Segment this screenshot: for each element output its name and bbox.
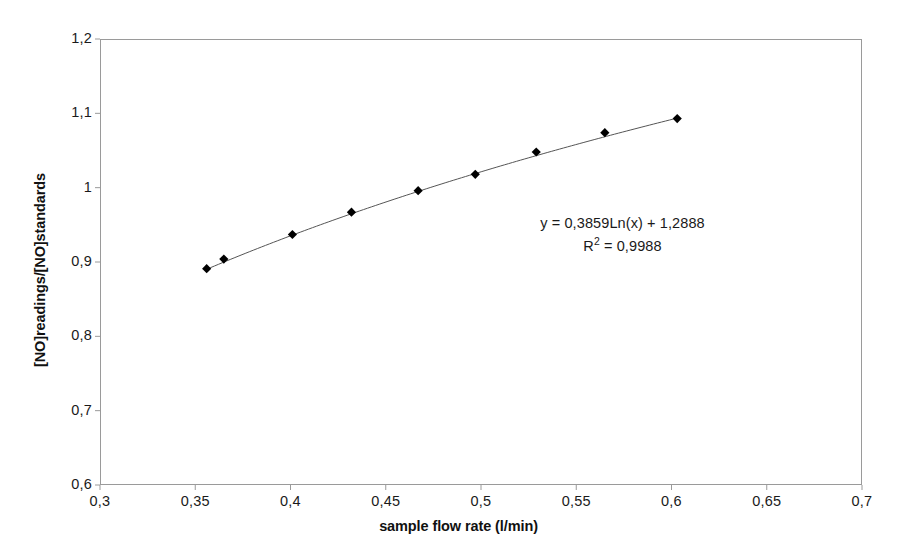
trendline-equation-annotation: y = 0,3859Ln(x) + 1,2888 R2 = 0,9988 — [505, 212, 740, 258]
equation-text: y = 0,3859Ln(x) + 1,2888 — [505, 212, 740, 234]
x-tick-label: 0,6 — [642, 493, 702, 509]
plot-area-frame — [100, 39, 862, 485]
y-tick-label: 0,6 — [40, 476, 92, 492]
chart-container: 0,60,70,80,911,11,2 0,30,350,40,450,50,5… — [0, 0, 917, 554]
x-tick-label: 0,4 — [261, 493, 321, 509]
r-squared-prefix: R — [583, 238, 594, 254]
x-tick-label: 0,35 — [165, 493, 225, 509]
y-axis-title: [NO]readings/[NO]standards — [25, 125, 55, 415]
x-tick-label: 0,55 — [546, 493, 606, 509]
x-axis-title: sample flow rate (l/min) — [0, 518, 917, 534]
x-tick-label: 0,45 — [356, 493, 416, 509]
x-tick-label: 0,65 — [737, 493, 797, 509]
y-tick-label: 1,2 — [40, 30, 92, 46]
r-squared-value: = 0,9988 — [600, 238, 662, 254]
r-squared-text: R2 = 0,9988 — [505, 234, 740, 257]
y-tick-label: 1,1 — [40, 104, 92, 120]
y-axis-title-text: [NO]readings/[NO]standards — [32, 173, 48, 367]
x-tick-label: 0,5 — [451, 493, 511, 509]
x-tick-label: 0,7 — [832, 493, 892, 509]
x-axis-title-text: sample flow rate (l/min) — [379, 518, 538, 534]
x-tick-label: 0,3 — [70, 493, 130, 509]
